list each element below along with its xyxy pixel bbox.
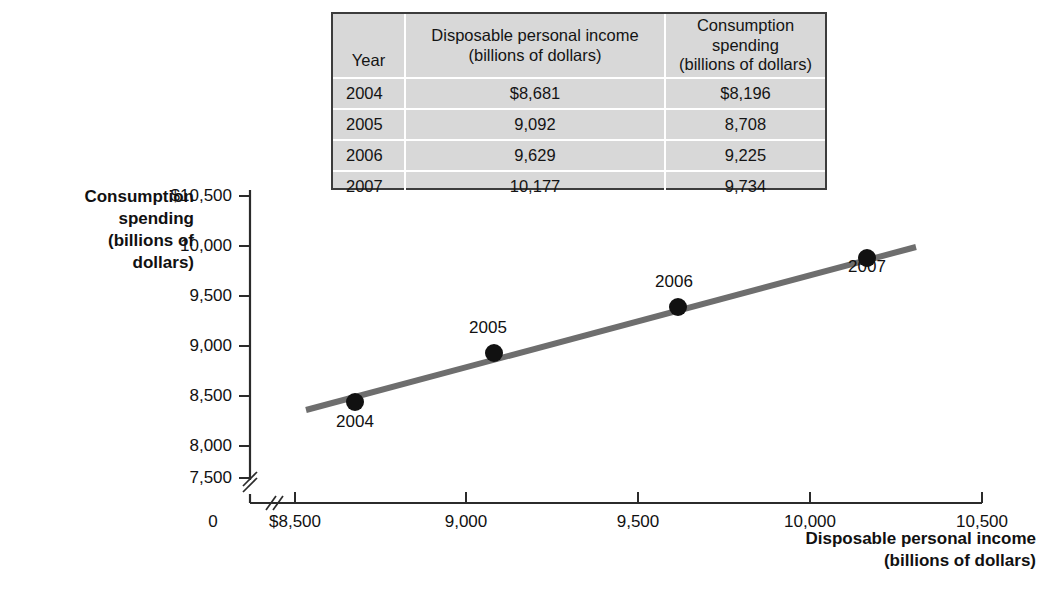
point-label-2006: 2006 [639,272,709,292]
y-axis-title-line2: spending [36,208,194,230]
chart-figure: Year Disposable personal income (billion… [0,0,1047,596]
x-tick-label: 10,500 [927,512,1037,532]
x-tick-label: $8,500 [240,512,350,532]
point-label-2005: 2005 [453,318,523,338]
data-point-2004 [346,393,364,411]
x-tick-label: 9,000 [411,512,521,532]
y-tick-label: 8,500 [140,386,232,406]
x-tick-label: 10,000 [755,512,865,532]
point-label-2004: 2004 [320,412,390,432]
data-point-2005 [485,344,503,362]
y-tick-label: $10,500 [140,186,232,206]
x-axis-title-line2: (billions of dollars) [640,550,1036,572]
y-tick-label: 7,500 [140,468,232,488]
x-axis-title: Disposable personal income (billions of … [640,528,1036,572]
data-point-2006 [669,298,687,316]
y-tick-label: 9,500 [140,286,232,306]
origin-label: 0 [196,512,230,532]
y-tick-label: 8,000 [140,436,232,456]
trend-line [306,247,916,410]
x-tick-label: 9,500 [583,512,693,532]
point-label-2007: 2007 [832,257,902,277]
y-tick-label: 10,000 [140,236,232,256]
y-tick-label: 9,000 [140,336,232,356]
